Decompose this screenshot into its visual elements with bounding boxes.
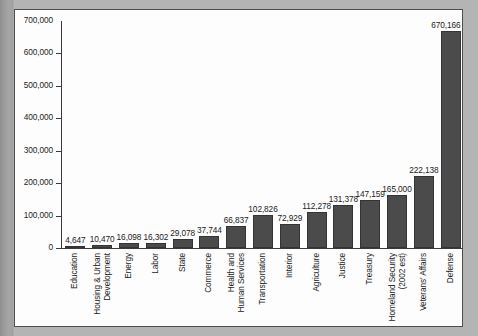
- category-label: Agriculture: [312, 253, 322, 292]
- bar[interactable]: [414, 176, 434, 248]
- bar[interactable]: [146, 243, 166, 248]
- category-label: Treasury: [365, 253, 375, 285]
- category-label-slot: Veterans' Affairs: [414, 253, 434, 325]
- y-axis-tick-label: 400,000: [24, 112, 53, 122]
- bar[interactable]: [173, 239, 193, 248]
- bar[interactable]: [65, 246, 85, 248]
- category-label-slot: Transportation: [253, 253, 273, 325]
- category-label-line: Veterans' Affairs: [419, 253, 429, 311]
- category-label-line: Labor: [151, 253, 161, 274]
- bar-value-label: 147,159: [356, 189, 385, 199]
- bar[interactable]: [441, 31, 461, 248]
- category-label-slot: Commerce: [199, 253, 219, 325]
- category-label: Justice: [339, 253, 349, 278]
- bar-value-label: 66,837: [224, 215, 249, 225]
- category-label: Transportation: [258, 253, 268, 305]
- bar[interactable]: [307, 212, 327, 248]
- bar[interactable]: [280, 224, 300, 248]
- bar-value-label: 102,826: [248, 204, 277, 214]
- category-label: Labor: [151, 253, 161, 274]
- category-label-line: (2002 est): [397, 253, 407, 321]
- bar[interactable]: [253, 215, 273, 248]
- category-label-slot: Health andHuman Services: [226, 253, 246, 325]
- y-axis-tick-label: 200,000: [24, 177, 53, 187]
- category-label-slot: Interior: [280, 253, 300, 325]
- bar[interactable]: [199, 236, 219, 248]
- category-label-slot: State: [173, 253, 193, 325]
- x-axis-category-labels: EducationHousing & UrbanDevelopmentEnerg…: [61, 253, 463, 325]
- category-label-slot: Education: [65, 253, 85, 325]
- category-label-slot: Homeland Security(2002 est): [387, 253, 407, 325]
- bar-value-label: 165,000: [382, 184, 411, 194]
- bar-value-label: 10,470: [90, 234, 115, 244]
- bar[interactable]: [387, 195, 407, 249]
- category-label: Housing & UrbanDevelopment: [93, 253, 112, 315]
- category-label-line: Justice: [339, 253, 349, 278]
- bar-value-label: 29,078: [170, 228, 195, 238]
- bar-value-label: 4,647: [65, 235, 85, 245]
- category-label-slot: Energy: [119, 253, 139, 325]
- bar-value-label: 131,378: [329, 194, 358, 204]
- category-label-slot: Justice: [333, 253, 353, 325]
- category-label-line: Defense: [446, 253, 456, 283]
- category-label-slot: Treasury: [360, 253, 380, 325]
- category-label-slot: Labor: [146, 253, 166, 325]
- category-label-line: Human Services: [236, 253, 246, 312]
- bar-value-label: 222,138: [409, 165, 438, 175]
- y-axis-tick-label: 700,000: [24, 15, 53, 25]
- chart-panel: 700,000600,000500,000400,000300,000200,0…: [14, 9, 463, 327]
- category-label-line: Education: [71, 253, 81, 289]
- category-label: Commerce: [205, 253, 215, 293]
- plot-area: 700,000600,000500,000400,000300,000200,0…: [15, 10, 462, 326]
- category-label: Education: [71, 253, 81, 289]
- bars-layer: 4,64710,47016,09816,30229,07837,74466,83…: [61, 10, 463, 249]
- category-label-slot: Defense: [441, 253, 461, 325]
- category-label: Veterans' Affairs: [419, 253, 429, 311]
- category-label-line: Treasury: [365, 253, 375, 285]
- category-label-line: Development: [102, 253, 112, 315]
- y-axis-tick-label: 600,000: [24, 47, 53, 57]
- y-axis-tick-label: 300,000: [24, 145, 53, 155]
- bar-value-label: 670,166: [431, 20, 460, 30]
- category-label-slot: Agriculture: [307, 253, 327, 325]
- category-label: Defense: [446, 253, 456, 283]
- y-axis-tick-label: 500,000: [24, 80, 53, 90]
- category-label: Energy: [124, 253, 134, 279]
- category-label: Homeland Security(2002 est): [388, 253, 407, 321]
- category-label-line: Agriculture: [312, 253, 322, 292]
- bar[interactable]: [333, 205, 353, 248]
- bar[interactable]: [119, 243, 139, 248]
- bar-value-label: 16,098: [117, 232, 142, 242]
- category-label-line: State: [178, 253, 188, 272]
- bar[interactable]: [360, 200, 380, 248]
- bar[interactable]: [226, 226, 246, 248]
- category-label: State: [178, 253, 188, 272]
- category-label-line: Transportation: [258, 253, 268, 305]
- category-label: Health andHuman Services: [227, 253, 246, 312]
- y-axis-tick-label: 100,000: [24, 210, 53, 220]
- category-label-slot: Housing & UrbanDevelopment: [92, 253, 112, 325]
- bar-value-label: 72,929: [277, 213, 302, 223]
- category-label-line: Energy: [124, 253, 134, 279]
- category-label-line: Interior: [285, 253, 295, 278]
- category-label: Interior: [285, 253, 295, 278]
- bar-value-label: 16,302: [143, 232, 168, 242]
- category-label-line: Commerce: [205, 253, 215, 293]
- bar-value-label: 112,278: [302, 201, 331, 211]
- bar-value-label: 37,744: [197, 225, 222, 235]
- bar[interactable]: [92, 245, 112, 248]
- y-axis-tick-label: 0: [48, 242, 53, 252]
